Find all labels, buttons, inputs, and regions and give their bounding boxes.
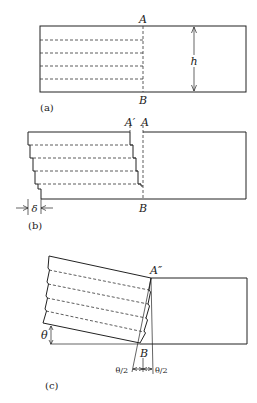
undeformed-block — [140, 278, 247, 344]
label-a-double-prime: A″ — [149, 264, 163, 277]
label-delta: δ — [31, 203, 37, 214]
label-half-theta-left: θ/2 — [115, 366, 128, 375]
rotated-bottom-edge — [43, 323, 140, 343]
label-a: A — [140, 116, 149, 129]
rotated-left-edge — [43, 256, 50, 323]
caption-a: (a) — [40, 102, 54, 113]
kink-band-diagram: h A B (a) δ A′ A B (b) — [0, 0, 257, 403]
label-a-prime: A′ — [124, 116, 136, 129]
block-outline — [28, 132, 246, 199]
panel-c: θ/2 θ/2 θ A″ B (c) — [41, 256, 247, 391]
label-b: B — [138, 202, 147, 215]
layer-line — [47, 298, 146, 318]
panel-a: h A B (a) — [40, 13, 246, 113]
label-b: B — [139, 347, 148, 360]
rotated-top-edge — [49, 256, 151, 278]
stepped-right-edge — [130, 132, 143, 186]
label-b: B — [138, 94, 147, 107]
layer-line — [46, 311, 144, 332]
kink-boundary-right — [151, 278, 153, 374]
caption-b: (b) — [28, 220, 42, 231]
caption-c: (c) — [45, 380, 59, 391]
label-half-theta-right: θ/2 — [155, 366, 168, 375]
label-theta: θ — [41, 329, 48, 342]
panel-b: δ A′ A B (b) — [16, 116, 246, 231]
label-a: A — [138, 13, 147, 26]
label-h: h — [190, 55, 197, 68]
